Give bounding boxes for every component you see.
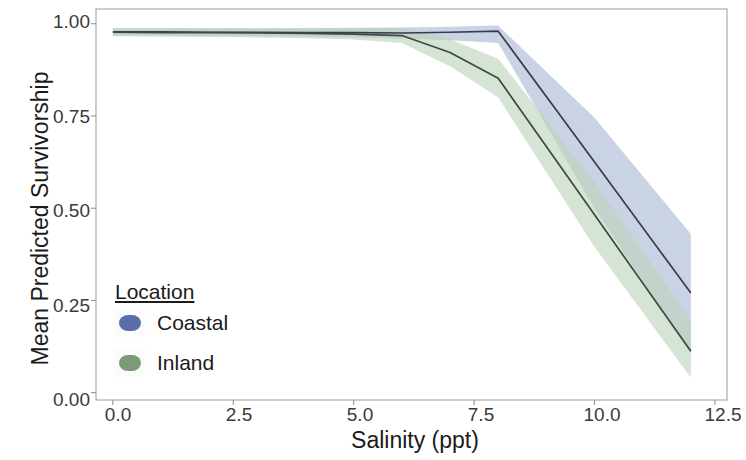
inland-color-swatch <box>119 355 141 371</box>
coastal-color-swatch <box>119 315 141 331</box>
legend-item-coastal[interactable]: Coastal <box>115 308 228 338</box>
legend-label-coastal: Coastal <box>157 311 228 335</box>
legend-key-coastal <box>115 309 145 337</box>
legend-key-inland <box>115 349 145 377</box>
legend-title: Location <box>115 280 194 304</box>
legend-item-inland[interactable]: Inland <box>115 348 214 378</box>
legend-label-inland: Inland <box>157 351 214 375</box>
